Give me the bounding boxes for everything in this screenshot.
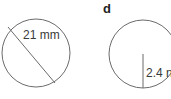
circle-diameter-figure: 21 mm	[2, 19, 70, 87]
radius-label: 2.4 n	[146, 66, 171, 80]
circles-diagram: 21 mm d 2.4 n	[0, 0, 171, 99]
part-label-d: d	[103, 1, 111, 16]
circle-radius-figure: d 2.4 n	[103, 1, 171, 88]
diameter-label: 21 mm	[23, 28, 60, 42]
